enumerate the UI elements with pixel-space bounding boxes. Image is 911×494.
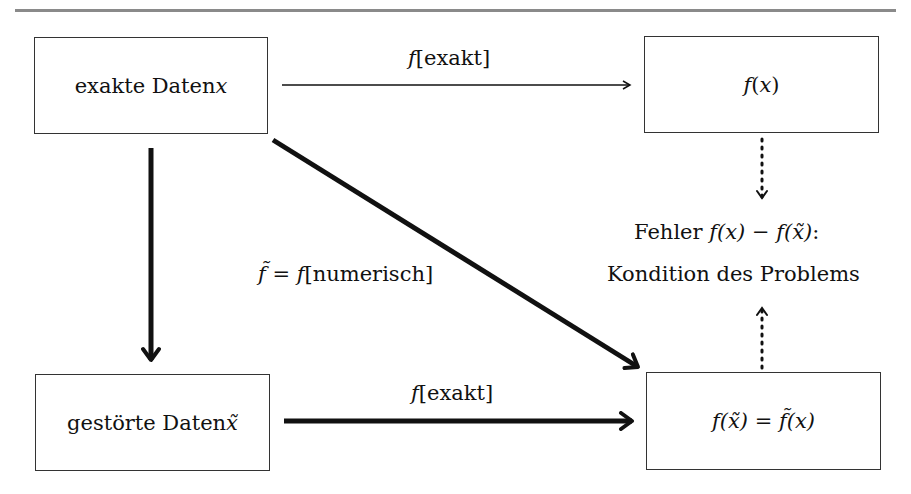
node-perturbed-data: gestörte Daten x̃ [35,374,270,471]
edge-label-top-rest: [exakt] [416,46,490,70]
node-perturbed-result-rhs-f: f̃ [779,409,787,433]
node-exact-result-close: ) [771,73,779,97]
error-note-line2: Kondition des Problems [607,262,860,286]
edge-label-diagonal-eq: = [266,262,297,286]
node-perturbed-data-var: x̃ [226,411,238,435]
edge-label-diagonal-f: f [297,262,305,286]
node-perturbed-result-eq: = [748,409,779,433]
error-note-line1: Fehler f(x) − f(x̃): [634,220,819,244]
arrow-numeric-diagonal [273,140,638,367]
error-note-line1-text: Fehler [634,220,709,244]
node-exact-data-var: x [215,74,227,98]
edge-label-diagonal-rest: [numerisch] [305,262,434,286]
node-exact-result-f: f [743,73,751,97]
edge-label-bottom-rest: [exakt] [419,381,493,405]
error-note-line1-colon: : [812,220,819,244]
edge-label-top: f[exakt] [408,46,490,70]
error-note-line2-text: Kondition des Problems [607,262,860,286]
node-perturbed-result-lhs-f: f [712,409,720,433]
edge-label-bottom: f[exakt] [411,381,493,405]
node-exact-result-var: x [759,73,771,97]
node-exact-data: exakte Daten x [34,37,268,134]
node-exact-data-text: exakte Daten [75,74,216,98]
edge-label-bottom-f: f [411,381,419,405]
node-perturbed-result-lhs-arg: (x̃) [720,409,748,433]
edge-label-diagonal: f̃ = f[numerisch] [258,262,433,286]
edge-label-diagonal-ftilde: f̃ [258,262,266,286]
node-perturbed-result-rhs-arg: (x) [787,409,815,433]
node-perturbed-data-text: gestörte Daten [67,411,226,435]
node-exact-result-open: ( [751,73,759,97]
node-exact-result: f ( x ) [644,36,879,133]
node-perturbed-result: f (x̃) = f̃ (x) [646,372,881,470]
error-note-line1-math: f(x) − f(x̃) [709,220,812,244]
edge-label-top-f: f [408,46,416,70]
